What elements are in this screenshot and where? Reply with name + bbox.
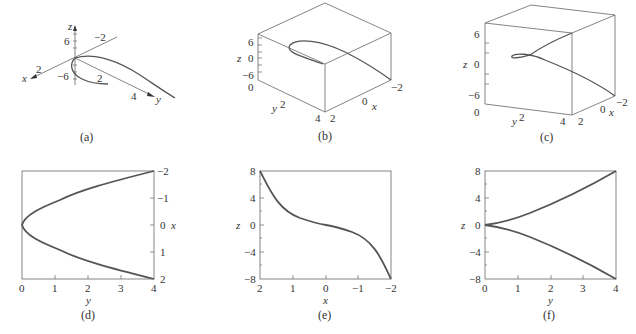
z-tick: 6	[474, 28, 480, 40]
z-tick: 6	[248, 36, 254, 48]
y-tick: −4	[244, 246, 256, 258]
x-tick: 2	[578, 115, 584, 127]
x-axis-label: x	[322, 294, 328, 306]
parabola-curve	[22, 171, 154, 279]
x-tick: −2	[385, 282, 397, 294]
x-axis-label: x	[371, 100, 377, 112]
y-tick: −8	[469, 273, 481, 285]
x-tick: 2	[257, 282, 263, 294]
y-tick: 2	[97, 72, 103, 84]
y-tick: −2	[157, 165, 169, 177]
y-axis-label: z	[235, 219, 241, 231]
x-tick: 0	[19, 282, 25, 294]
y-axis	[75, 58, 151, 95]
y-tick: 0	[474, 106, 480, 118]
y-axis-label: z	[460, 219, 466, 231]
curve-3d	[512, 33, 615, 96]
caption-e: (e)	[318, 308, 331, 322]
x-tick: 0	[482, 282, 488, 294]
x-tick: 2	[330, 112, 336, 124]
y-tick: 2	[519, 111, 525, 123]
y-tick: 2	[280, 98, 286, 110]
z-axis-label: z	[67, 20, 73, 32]
z-arrow-icon	[73, 25, 77, 31]
x-axis-label: x	[21, 72, 27, 84]
x-axis-label: y	[85, 294, 91, 306]
y-axis-label: x	[170, 219, 176, 231]
x-tick: −1	[352, 282, 364, 294]
x-tick: 0	[362, 95, 368, 107]
y-tick: 0	[160, 219, 166, 231]
figure-canvas: z 6 −6 −2 2 x 2 4 y (a) 6 z 0 −6 0 y 2	[0, 0, 636, 334]
x-tick: 1	[52, 282, 58, 294]
x-tick: −2	[616, 96, 628, 108]
plot-frame	[485, 171, 616, 279]
x-tick: 3	[580, 282, 586, 294]
y-tick: 0	[248, 81, 254, 93]
lower-branch-curve	[485, 225, 616, 279]
z-axis-label: z	[462, 58, 468, 70]
x-tick: 0	[323, 282, 329, 294]
panel-b: 6 z 0 −6 0 y 2 4 2 0 x −2 (b)	[236, 3, 403, 143]
panel-c: 6 z 0 −6 0 y 2 4 2 0 x −2 (c)	[462, 5, 628, 144]
curve-upper	[75, 56, 175, 98]
upper-branch-curve	[485, 171, 616, 225]
z-tick: −6	[242, 69, 254, 81]
y-tick: 4	[131, 90, 137, 102]
z-axis-label: z	[236, 52, 242, 64]
x-tick: 2	[85, 282, 91, 294]
y-tick: 4	[560, 115, 566, 127]
x-tick: 3	[118, 282, 124, 294]
y-tick: 1	[160, 246, 166, 258]
y-tick: 4	[475, 192, 481, 204]
y-arrow-icon	[147, 92, 155, 97]
x-tick: 1	[515, 282, 521, 294]
z-tick: −6	[57, 70, 69, 82]
panel-f: 0 1 2 3 4 y 8 4 0 z −4 −8 (f)	[460, 165, 619, 322]
y-tick: −8	[244, 273, 256, 285]
panel-a: z 6 −6 −2 2 x 2 4 y (a)	[21, 20, 175, 144]
curve-3d	[289, 41, 391, 80]
caption-d: (d)	[81, 308, 95, 322]
caption-b: (b)	[318, 129, 332, 143]
y-tick: 0	[475, 219, 481, 231]
plot-frame	[22, 171, 154, 279]
y-tick: 4	[250, 192, 256, 204]
y-tick: 4	[315, 112, 321, 124]
y-axis-label: y	[271, 102, 277, 114]
y-tick: 8	[250, 165, 256, 177]
y-tick: 0	[250, 219, 256, 231]
panel-d: 0 1 2 3 4 y −2 −1 0 x 1 2 (d)	[19, 165, 176, 322]
x-axis-label: x	[608, 106, 614, 118]
x-tick: 2	[548, 282, 554, 294]
y-axis-label: y	[155, 93, 161, 105]
x-tick: −2	[94, 31, 106, 43]
y-axis-label: y	[511, 115, 517, 127]
x-tick: 2	[36, 63, 42, 75]
caption-f: (f)	[543, 308, 555, 322]
x-tick: 4	[613, 282, 619, 294]
z-tick: 0	[248, 52, 254, 64]
y-tick: 8	[475, 165, 481, 177]
x-tick: −2	[391, 81, 403, 93]
caption-a: (a)	[80, 130, 93, 144]
panel-e: 2 1 0 −1 −2 x 8 4 0 z −4 −8 (e)	[235, 165, 397, 322]
cubic-curve	[260, 171, 391, 279]
z-tick: 6	[64, 35, 70, 47]
x-tick: 1	[290, 282, 296, 294]
x-tick: 0	[600, 103, 606, 115]
y-tick: −1	[157, 192, 169, 204]
caption-c: (c)	[540, 130, 553, 144]
z-tick: 0	[474, 58, 480, 70]
x-tick: 4	[151, 282, 157, 294]
z-tick: −6	[468, 89, 480, 101]
x-axis-label: y	[547, 294, 553, 306]
y-tick: −4	[469, 246, 481, 258]
y-tick: 2	[160, 273, 166, 285]
